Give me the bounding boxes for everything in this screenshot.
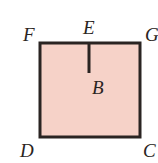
label-g: G	[145, 24, 158, 45]
label-c: C	[143, 140, 156, 161]
geometry-diagram: F E G B D C	[0, 0, 158, 163]
label-b: B	[92, 77, 104, 98]
label-d: D	[19, 140, 34, 161]
label-e: E	[82, 17, 95, 38]
label-f: F	[22, 24, 35, 45]
